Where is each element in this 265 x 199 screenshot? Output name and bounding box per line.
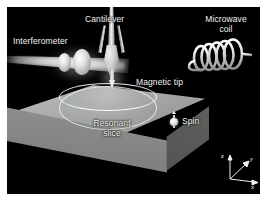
axis-label-x: x	[251, 183, 254, 191]
mrfm-scene: z y x Interferometer Cantilever Microwav…	[7, 7, 260, 194]
interferometer-lens-1	[58, 53, 71, 72]
label-microwave-coil-line2: coil	[197, 25, 255, 35]
axis-label-y: y	[250, 155, 253, 163]
axis-label-z: z	[221, 152, 224, 160]
cantilever-prong-right	[117, 25, 125, 53]
interferometer-lens-2	[73, 49, 91, 75]
label-magnetic-tip: Magnetic tip	[136, 78, 183, 88]
label-interferometer: Interferometer	[13, 37, 68, 47]
magnetic-tip-glow	[101, 67, 123, 89]
figure-frame: z y x Interferometer Cantilever Microwav…	[7, 7, 260, 194]
microwave-coil	[185, 33, 257, 79]
label-cantilever: Cantilever	[85, 15, 124, 25]
label-resonant-slice-line2: slice	[85, 129, 139, 139]
microwave-coil-svg	[185, 33, 257, 79]
label-spin: Spin	[182, 117, 199, 127]
cantilever-prong-left	[98, 25, 106, 53]
coordinate-axes: z y x	[221, 149, 260, 191]
spin-arrowhead	[172, 111, 176, 114]
coordinate-axes-svg	[221, 149, 260, 191]
spin-marker	[170, 118, 178, 126]
